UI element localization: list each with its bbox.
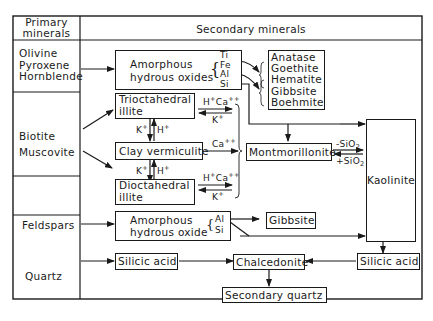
label-verm-mont: Ca++ [212,139,236,149]
mineral-muscovite: Muscovite [19,144,75,160]
label-tri-verm-left: K+ [136,125,148,135]
label-mont-kaol-bottom: +SiO2 [336,156,364,166]
label-tri-verm-right: H+ [157,125,170,135]
element-list: Ti Fe Al Si [220,51,231,89]
label-verm-di-left: K+ [136,166,148,176]
label-mont-kaol-top: -SiO2 [336,139,360,149]
al-si-brace: { [206,212,214,238]
di-illite-line2: illite [119,192,190,204]
tri-illite-line1: Trioctahedral [119,94,191,106]
dioctahedral-illite-label: Dioctahedral illite [119,180,190,203]
tri-illite-line2: illite [119,106,191,118]
mineral-quartz: Quartz [25,270,62,282]
primary-header-line2: minerals [13,28,80,39]
label-di-bottom: K+ [212,192,224,202]
element-al-feldspar: Al [215,214,224,225]
gibbsite-label: Gibbsite [269,214,315,226]
primary-minerals-header: Primary minerals [13,17,80,39]
oxide-products-list: Anatase Goethite Hematite Gibbsite Boehm… [271,52,324,108]
silicic-acid-left-label: Silicic acid [118,255,177,267]
mineral-feldspars: Feldspars [22,219,75,231]
primary-row-mica-group: Biotite Muscovite [19,128,75,160]
amorphous-line1: Amorphous [130,58,214,71]
di-illite-line1: Dioctahedral [119,180,190,192]
chalcedonite-label: Chalcedonite [236,256,308,268]
product-hematite: Hematite [271,74,324,85]
secondary-quartz-label: Secondary quartz [225,289,322,301]
amorphous-oxide-line2: hydrous oxide [130,226,208,238]
product-boehmite: Boehmite [271,97,324,108]
secondary-minerals-header: Secondary minerals [80,23,422,35]
elements-brace: { [210,52,220,88]
silicic-acid-right-label: Silicic acid [360,255,419,267]
label-tri-top: H+Ca++ [203,97,240,107]
element-si: Si [220,80,231,90]
mineral-hornblende: Hornblende [19,71,83,83]
clay-vermiculite-label: Clay vermiculite [119,145,209,157]
amorphous-oxide-line1: Amorphous [130,214,208,226]
amorphous-hydrous-oxides-label: Amorphous hydrous oxides [130,58,214,84]
mineral-biotite: Biotite [19,128,75,144]
element-si-feldspar: Si [215,225,224,236]
label-tri-bottom: K+ [212,115,224,125]
mineral-olivine: Olivine [19,48,83,60]
montmorillonite-label: Montmorillonite [249,146,336,158]
label-verm-di-right: H+ [157,166,170,176]
trioctahedral-illite-label: Trioctahedral illite [119,94,191,117]
primary-row-olivine-group: Olivine Pyroxene Hornblende [19,48,83,83]
amorphous-line2: hydrous oxides [130,71,214,84]
label-di-top: H+Ca++ [203,173,240,183]
kaolinite-label: Kaolinite [366,174,416,186]
al-si-list: Al Si [215,214,224,236]
amorphous-hydrous-oxide-label: Amorphous hydrous oxide [130,214,208,238]
